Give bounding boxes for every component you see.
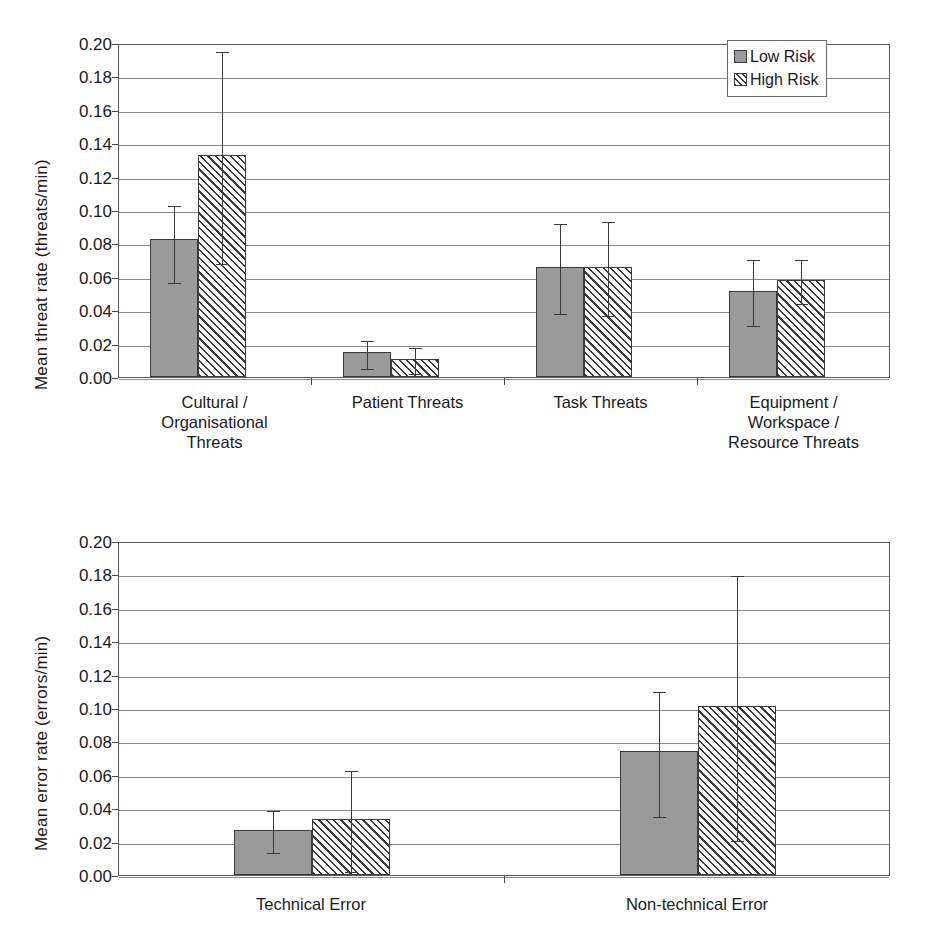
x-axis-tick-mark bbox=[311, 378, 312, 385]
error-bar bbox=[222, 52, 223, 264]
x-axis-label-line: Non-technical Error bbox=[504, 894, 890, 914]
y-axis-tick-mark bbox=[112, 776, 118, 777]
y-axis-tick-mark bbox=[112, 876, 118, 877]
y-axis-tick-label: 0.06 bbox=[52, 269, 112, 286]
error-bar bbox=[801, 260, 802, 304]
error-bar-cap-upper bbox=[168, 206, 181, 207]
x-axis-category-label: Task Threats bbox=[504, 392, 697, 412]
gridline bbox=[119, 112, 889, 113]
y-axis-tick-label: 0.08 bbox=[52, 734, 112, 751]
x-axis-category-label: Cultural /OrganisationalThreats bbox=[118, 392, 311, 452]
error-bar-cap-upper bbox=[409, 348, 422, 349]
gridline bbox=[119, 610, 889, 611]
gridline bbox=[119, 677, 889, 678]
y-axis-tick-label: 0.12 bbox=[52, 169, 112, 186]
y-axis-tick-mark bbox=[112, 44, 118, 45]
y-axis-tick-mark bbox=[112, 542, 118, 543]
legend-item-label: High Risk bbox=[750, 72, 818, 88]
error-bar-cap-upper bbox=[554, 224, 567, 225]
y-axis-tick-label: 0.20 bbox=[52, 36, 112, 53]
error-bar-cap-upper bbox=[795, 260, 808, 261]
y-axis-tick-mark bbox=[112, 843, 118, 844]
y-axis-tick-label: 0.00 bbox=[52, 370, 112, 387]
y-axis-tick-label: 0.08 bbox=[52, 236, 112, 253]
x-axis-tick-mark bbox=[504, 378, 505, 385]
x-axis-label-line: Organisational bbox=[118, 412, 311, 432]
y-axis-tick-mark bbox=[112, 642, 118, 643]
error-bar-cap-lower bbox=[216, 264, 229, 265]
error-bar-cap-upper bbox=[361, 341, 374, 342]
error-bar-cap-lower bbox=[602, 316, 615, 317]
y-axis-tick-mark bbox=[112, 278, 118, 279]
x-axis-label-line: Patient Threats bbox=[311, 392, 504, 412]
y-axis-tick-label: 0.18 bbox=[52, 69, 112, 86]
error-bar-cap-upper bbox=[653, 692, 666, 693]
x-axis-label-line: Equipment / bbox=[697, 392, 890, 412]
error-bar-cap-upper bbox=[345, 771, 358, 772]
error-bar bbox=[351, 771, 352, 872]
y-axis-tick-label: 0.02 bbox=[52, 336, 112, 353]
y-axis-tick-mark bbox=[112, 809, 118, 810]
error-bar bbox=[608, 222, 609, 316]
error-bar-cap-lower bbox=[267, 853, 280, 854]
error-bar-cap-lower bbox=[345, 872, 358, 873]
error-bar-cap-lower bbox=[361, 369, 374, 370]
y-axis-tick-mark bbox=[112, 311, 118, 312]
y-axis-tick-mark bbox=[112, 77, 118, 78]
error-chart-y-axis-title: Mean error rate (errors/min) bbox=[32, 636, 52, 851]
error-bar bbox=[737, 576, 738, 840]
gridline bbox=[119, 145, 889, 146]
error-bar-cap-upper bbox=[731, 576, 744, 577]
error-bar-cap-lower bbox=[795, 304, 808, 305]
chart-legend[interactable]: Low RiskHigh Risk bbox=[727, 40, 827, 97]
y-axis-tick-mark bbox=[112, 575, 118, 576]
y-axis-tick-label: 0.06 bbox=[52, 767, 112, 784]
error-bar-cap-upper bbox=[267, 811, 280, 812]
x-axis-label-line: Cultural / bbox=[118, 392, 311, 412]
y-axis-tick-mark bbox=[112, 345, 118, 346]
x-axis-label-line: Technical Error bbox=[118, 894, 504, 914]
y-axis-tick-label: 0.02 bbox=[52, 834, 112, 851]
y-axis-tick-label: 0.14 bbox=[52, 136, 112, 153]
error-bar bbox=[560, 224, 561, 314]
y-axis-tick-mark bbox=[112, 178, 118, 179]
legend-item-high-risk[interactable]: High Risk bbox=[734, 68, 818, 91]
error-bar bbox=[367, 341, 368, 369]
y-axis-tick-mark bbox=[112, 144, 118, 145]
threat-chart-y-axis-title: Mean threat rate (threats/min) bbox=[32, 159, 52, 390]
error-bar bbox=[659, 692, 660, 816]
x-axis-label-line: Resource Threats bbox=[697, 432, 890, 452]
y-axis-tick-label: 0.04 bbox=[52, 303, 112, 320]
threat-rate-chart: Mean threat rate (threats/min) 0.000.020… bbox=[0, 0, 930, 466]
x-axis-label-line: Workspace / bbox=[697, 412, 890, 432]
y-axis-tick-mark bbox=[112, 378, 118, 379]
y-axis-tick-label: 0.14 bbox=[52, 634, 112, 651]
x-axis-label-line: Threats bbox=[118, 432, 311, 452]
error-bar-cap-lower bbox=[731, 841, 744, 842]
error-bar-cap-lower bbox=[168, 283, 181, 284]
y-axis-tick-mark bbox=[112, 709, 118, 710]
y-axis-tick-label: 0.10 bbox=[52, 203, 112, 220]
y-axis-tick-label: 0.18 bbox=[52, 567, 112, 584]
error-bar bbox=[415, 348, 416, 374]
y-axis-tick-label: 0.12 bbox=[52, 667, 112, 684]
x-axis-category-label: Equipment /Workspace /Resource Threats bbox=[697, 392, 890, 452]
error-bar bbox=[273, 811, 274, 853]
legend-swatch-icon bbox=[734, 73, 747, 86]
legend-item-low-risk[interactable]: Low Risk bbox=[734, 45, 818, 68]
error-bar-cap-upper bbox=[602, 222, 615, 223]
error-bar-cap-upper bbox=[747, 260, 760, 261]
x-axis-category-label: Non-technical Error bbox=[504, 894, 890, 914]
error-bar-cap-lower bbox=[554, 314, 567, 315]
x-axis-category-label: Technical Error bbox=[118, 894, 504, 914]
error-bar bbox=[753, 260, 754, 326]
y-axis-tick-mark bbox=[112, 676, 118, 677]
y-axis-tick-mark bbox=[112, 211, 118, 212]
error-chart-plot-area bbox=[118, 542, 890, 876]
x-axis-tick-mark bbox=[697, 378, 698, 385]
error-chart-y-tick-labels: 0.000.020.040.060.080.100.120.140.160.18… bbox=[50, 466, 112, 932]
gridline bbox=[119, 643, 889, 644]
y-axis-tick-label: 0.16 bbox=[52, 102, 112, 119]
y-axis-tick-label: 0.00 bbox=[52, 868, 112, 885]
legend-item-label: Low Risk bbox=[750, 49, 815, 65]
